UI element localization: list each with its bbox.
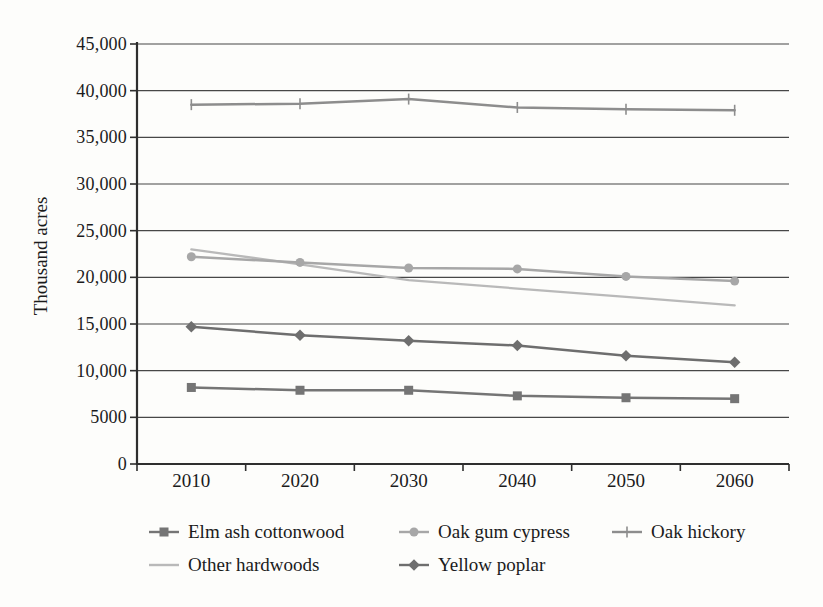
legend-label: Oak hickory <box>651 521 745 543</box>
y-tick-label: 15,000 <box>20 314 127 334</box>
circle-marker <box>404 264 413 273</box>
legend-label: Oak gum cypress <box>438 521 570 543</box>
legend-item: Elm ash cottonwood <box>148 521 344 543</box>
circle-marker <box>187 252 196 261</box>
diamond-legend-icon <box>398 557 430 573</box>
y-tick-label: 20,000 <box>20 267 127 287</box>
legend-label: Yellow poplar <box>438 554 545 576</box>
square-marker <box>730 394 739 403</box>
x-tick-label: 2050 <box>591 470 661 492</box>
circle-marker <box>296 258 305 267</box>
line-legend-icon <box>148 557 180 573</box>
diamond-marker <box>294 329 306 341</box>
series-line-oak-hickory <box>191 99 734 110</box>
y-tick-label: 25,000 <box>20 221 127 241</box>
series-line-elm-ash-cottonwood <box>191 387 734 398</box>
legend-label: Elm ash cottonwood <box>188 521 344 543</box>
legend-item: Other hardwoods <box>148 554 319 576</box>
circle-legend-icon <box>398 524 430 540</box>
x-tick-label: 2030 <box>374 470 444 492</box>
diamond-marker <box>620 350 632 362</box>
legend-item: Oak hickory <box>611 521 745 543</box>
x-tick-label: 2020 <box>265 470 335 492</box>
legend-item: Yellow poplar <box>398 554 545 576</box>
legend-item: Oak gum cypress <box>398 521 570 543</box>
diamond-marker <box>512 340 524 352</box>
square-legend-icon <box>148 524 180 540</box>
diamond-marker <box>186 321 198 333</box>
x-tick-label: 2040 <box>482 470 552 492</box>
diamond-marker <box>729 356 741 368</box>
circle-marker <box>513 264 522 273</box>
square-marker <box>513 391 522 400</box>
x-tick-label: 2060 <box>700 470 770 492</box>
diamond-marker <box>403 335 415 347</box>
y-tick-label: 30,000 <box>20 174 127 194</box>
y-tick-label: 10,000 <box>20 361 127 381</box>
y-tick-label: 0 <box>20 454 127 474</box>
x-tick-label: 2010 <box>156 470 226 492</box>
circle-marker <box>730 277 739 286</box>
circle-marker <box>622 272 631 281</box>
plus-legend-icon <box>611 524 643 540</box>
y-axis-title: Thousand acres <box>29 136 53 376</box>
y-tick-label: 40,000 <box>20 81 127 101</box>
square-marker <box>296 386 305 395</box>
line-chart-figure: Thousand acres 0500010,00015,00020,00025… <box>0 0 823 607</box>
square-marker <box>622 393 631 402</box>
y-tick-label: 5000 <box>20 407 127 427</box>
legend-label: Other hardwoods <box>188 554 319 576</box>
y-tick-label: 35,000 <box>20 127 127 147</box>
square-marker <box>187 383 196 392</box>
series-line-yellow-poplar <box>191 327 734 362</box>
square-marker <box>404 386 413 395</box>
y-tick-label: 45,000 <box>20 34 127 54</box>
